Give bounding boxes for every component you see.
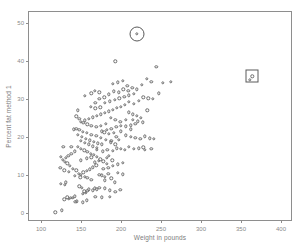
x-tick-mark bbox=[121, 220, 122, 223]
data-point bbox=[132, 92, 135, 95]
data-point bbox=[116, 171, 119, 174]
x-tick-label: 350 bbox=[236, 226, 246, 232]
data-point bbox=[150, 80, 153, 83]
y-tick-label: 10 bbox=[17, 172, 24, 178]
y-tick-label: 20 bbox=[17, 134, 24, 140]
data-point bbox=[116, 81, 119, 84]
data-point bbox=[106, 148, 109, 151]
data-point bbox=[91, 145, 94, 148]
data-point bbox=[103, 111, 106, 114]
data-point bbox=[102, 131, 105, 134]
data-point bbox=[111, 164, 114, 167]
data-point bbox=[137, 99, 140, 102]
data-point bbox=[106, 172, 109, 175]
data-point bbox=[129, 135, 132, 138]
data-point bbox=[140, 83, 143, 86]
data-point bbox=[119, 147, 122, 150]
data-point bbox=[90, 133, 93, 136]
data-point bbox=[88, 139, 91, 142]
data-point bbox=[119, 129, 122, 132]
x-tick-mark bbox=[281, 220, 282, 223]
data-point bbox=[67, 197, 70, 200]
x-axis-label: Weight in pounds bbox=[28, 234, 292, 241]
data-point bbox=[85, 131, 88, 134]
data-point bbox=[79, 159, 82, 162]
data-point bbox=[98, 186, 101, 189]
data-point bbox=[90, 156, 93, 159]
data-point bbox=[111, 149, 114, 152]
data-point bbox=[76, 109, 79, 112]
x-tick-mark bbox=[81, 220, 82, 223]
data-point bbox=[111, 82, 114, 85]
plot-area bbox=[29, 12, 291, 220]
data-point bbox=[98, 106, 101, 109]
data-point bbox=[87, 188, 90, 191]
data-point bbox=[62, 145, 65, 148]
x-tick-label: 100 bbox=[36, 226, 46, 232]
data-point bbox=[108, 100, 111, 103]
data-point bbox=[108, 195, 111, 198]
data-point bbox=[114, 190, 117, 193]
y-tick-label: 30 bbox=[17, 96, 24, 102]
data-point bbox=[127, 111, 130, 114]
plot-frame: 01020304050 100150200250300350400 bbox=[28, 11, 292, 221]
data-point bbox=[118, 188, 121, 191]
data-point bbox=[94, 134, 97, 137]
data-point bbox=[136, 120, 139, 123]
data-point bbox=[97, 159, 100, 162]
data-point bbox=[88, 168, 91, 171]
y-axis-label: Percent fat method 1 bbox=[2, 11, 14, 221]
data-point bbox=[110, 177, 113, 180]
data-point bbox=[135, 114, 138, 117]
data-point bbox=[122, 95, 125, 98]
data-point bbox=[95, 148, 98, 151]
data-point bbox=[122, 87, 125, 90]
data-point bbox=[83, 141, 86, 144]
data-point bbox=[124, 118, 127, 121]
x-tick-label: 150 bbox=[76, 226, 86, 232]
data-point bbox=[161, 81, 164, 84]
data-point bbox=[70, 145, 73, 148]
data-point bbox=[103, 101, 106, 104]
data-point bbox=[83, 94, 86, 97]
data-point bbox=[64, 156, 67, 159]
data-point bbox=[110, 127, 113, 130]
data-point bbox=[96, 142, 99, 145]
data-point bbox=[127, 94, 130, 97]
data-point bbox=[81, 201, 84, 204]
data-point bbox=[85, 157, 88, 160]
data-point bbox=[79, 139, 82, 142]
data-point bbox=[89, 105, 92, 108]
x-tick-label: 400 bbox=[276, 226, 286, 232]
data-point bbox=[123, 103, 126, 106]
data-point bbox=[64, 181, 67, 184]
annotation-circle-icon bbox=[130, 26, 145, 41]
data-point bbox=[73, 195, 76, 198]
data-point bbox=[63, 183, 66, 186]
data-point bbox=[154, 65, 157, 68]
data-point bbox=[148, 137, 151, 140]
data-point bbox=[62, 168, 65, 171]
y-tick-mark bbox=[26, 213, 29, 214]
data-point bbox=[129, 128, 132, 131]
y-tick-mark bbox=[26, 23, 29, 24]
x-tick-label: 250 bbox=[156, 226, 166, 232]
data-point bbox=[108, 189, 111, 192]
x-tick-mark bbox=[241, 220, 242, 223]
data-point bbox=[137, 147, 140, 150]
scatter-plot-figure: 01020304050 100150200250300350400 Percen… bbox=[0, 0, 301, 249]
y-tick-mark bbox=[26, 175, 29, 176]
data-point bbox=[92, 140, 95, 143]
y-tick-mark bbox=[26, 61, 29, 62]
data-point bbox=[135, 87, 138, 90]
data-point bbox=[74, 200, 77, 203]
data-point bbox=[78, 176, 81, 179]
data-point bbox=[134, 136, 137, 139]
data-point bbox=[118, 97, 121, 100]
data-point bbox=[127, 100, 130, 103]
data-point bbox=[101, 150, 104, 153]
y-tick-mark bbox=[26, 99, 29, 100]
data-point bbox=[87, 143, 90, 146]
data-point bbox=[106, 166, 109, 169]
data-point bbox=[58, 166, 61, 169]
